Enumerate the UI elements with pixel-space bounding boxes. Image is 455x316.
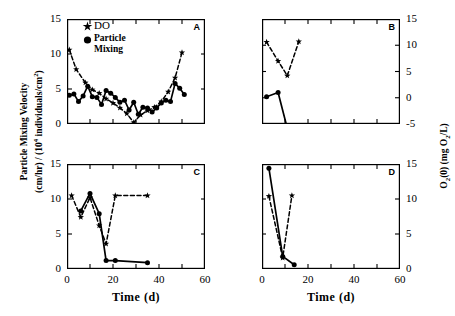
circle-marker [113,258,118,263]
circle-marker [113,95,118,100]
x-tick-label: 60 [385,273,415,285]
panel-tag-a: A [194,22,201,32]
series-line-do [72,196,148,244]
circle-marker [104,88,109,93]
legend-label-particle-mixing: ParticleMixing [94,33,126,54]
circle-marker [99,102,104,107]
y-tick-label: 15 [29,12,61,24]
y-tick-label: 10 [406,38,436,50]
circle-marker [154,105,159,110]
circle-marker [122,98,127,103]
panel-tag-d: D [389,167,396,177]
x-tick-label: 40 [144,273,174,285]
circle-marker [136,112,141,117]
circle-marker [97,211,102,216]
x-tick-label: 60 [190,273,220,285]
circle-marker [140,105,145,110]
star-marker [78,214,84,220]
y-tick-label: 10 [29,192,61,204]
circle-marker [78,208,83,213]
legend-item-particle-mixing: ParticleMixing [80,33,126,54]
circle-marker [177,86,182,91]
plot-area-d [262,164,400,269]
circle-marker-icon [80,33,94,46]
plot-panel-c: C [67,164,205,269]
circle-marker [145,105,150,110]
circle-marker [292,262,297,267]
series-line-do [269,196,292,258]
circle-marker [131,100,136,105]
circle-marker [150,110,155,115]
circle-marker [145,260,150,265]
y-tick-label: 15 [406,157,436,169]
x-tick-label: 0 [247,273,277,285]
circle-marker [108,91,113,96]
circle-marker [280,254,285,259]
y-tick-label: 5 [406,227,436,239]
circle-marker [90,94,95,99]
circle-marker [264,94,269,99]
plot-frame [68,165,205,269]
x-tick-label: 40 [339,273,369,285]
y-tick-label: 10 [406,192,436,204]
y-tick-label: -5 [406,117,436,129]
plot-area-b [262,19,400,124]
panel-tag-c: C [194,167,201,177]
plot-panel-d: D [262,164,400,269]
x-tick-label: 20 [98,273,128,285]
star-marker-icon [80,20,94,32]
star-marker [289,192,295,198]
legend-item-do: DO [80,20,126,32]
circle-marker [173,81,178,86]
y-tick-label: 0 [29,117,61,129]
star-marker [144,192,150,198]
circle-marker [88,191,93,196]
y-axis-label-left-line1: Particle Mixing Velocity [19,83,29,181]
circle-marker [94,95,99,100]
star-marker [73,66,79,72]
circle-marker [266,166,271,171]
figure-root: Particle Mixing Velocity (cm/hr) / (104 … [0,0,455,316]
circle-marker [104,258,109,263]
y-tick-label: 10 [29,47,61,59]
circle-marker [117,100,122,105]
y-tick-label: 15 [29,157,61,169]
y-tick-label: 15 [406,12,436,24]
x-axis-label-c: Time (d) [67,290,205,305]
plot-frame [263,20,400,124]
star-marker [165,89,171,95]
circle-marker [163,98,168,103]
y-axis-label-right: O2(0) (mg O2/L) [439,76,451,236]
plot-area-c [67,164,205,269]
star-marker [275,58,281,64]
star-marker [172,75,178,81]
circle-marker [71,91,76,96]
series-line-do [267,42,299,76]
circle-marker [67,93,72,98]
y-tick-label: 5 [29,82,61,94]
circle-marker [159,101,164,106]
x-tick-label: 0 [52,273,82,285]
circle-marker [85,84,90,89]
star-marker [263,39,269,45]
series-line-particle-mixing [267,93,299,125]
panel-tag-b: B [389,22,396,32]
x-axis-label-d: Time (d) [262,290,400,305]
legend: DO ParticleMixing [80,20,126,55]
circle-marker [168,99,173,104]
circle-marker [276,90,281,95]
y-tick-label: 0 [406,91,436,103]
y-tick-label: 5 [29,227,61,239]
x-tick-label: 20 [293,273,323,285]
plot-panel-b: B [262,19,400,124]
circle-marker [182,92,187,97]
legend-label-do: DO [94,20,110,31]
circle-marker [127,108,132,113]
y-tick-label: 5 [406,65,436,77]
circle-marker [76,99,81,104]
circle-marker [81,94,86,99]
